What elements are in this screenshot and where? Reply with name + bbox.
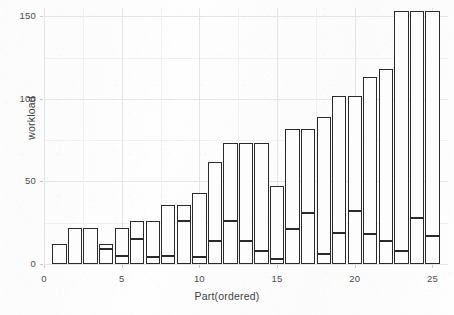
y-tick-mark bbox=[40, 16, 43, 17]
x-axis-title: Part(ordered) bbox=[0, 290, 454, 302]
bar-segment-lower bbox=[317, 254, 331, 264]
x-tick-mark bbox=[277, 265, 278, 268]
bar-segment-upper bbox=[394, 11, 408, 250]
y-tick-label: 50 bbox=[6, 175, 36, 186]
bar-segment-upper bbox=[208, 162, 222, 241]
x-tick-label: 15 bbox=[262, 273, 292, 284]
bar-segment-lower bbox=[394, 251, 408, 264]
bar-segment-upper bbox=[239, 143, 253, 240]
x-tick-label: 20 bbox=[340, 273, 370, 284]
bar-segment-upper bbox=[379, 69, 393, 241]
bar-segment-upper bbox=[363, 77, 377, 234]
bar-segment-lower bbox=[332, 233, 346, 264]
x-tick-mark bbox=[44, 265, 45, 268]
bar-segment-upper bbox=[270, 186, 284, 259]
bar-segment-lower bbox=[425, 236, 439, 264]
plot-panel bbox=[44, 8, 448, 264]
bar-segment-lower bbox=[161, 256, 175, 264]
y-tick-label: 150 bbox=[6, 10, 36, 21]
bars-layer bbox=[44, 8, 448, 264]
bar-segment-lower bbox=[363, 234, 377, 264]
x-tick-label: 0 bbox=[29, 273, 59, 284]
x-tick-mark bbox=[432, 265, 433, 268]
bar-segment-lower bbox=[379, 241, 393, 264]
bar-segment-lower bbox=[348, 211, 362, 264]
x-tick-label: 25 bbox=[417, 273, 447, 284]
y-tick-label: 0 bbox=[6, 258, 36, 269]
bar-segment-lower bbox=[239, 241, 253, 264]
bar-segment-upper bbox=[192, 193, 206, 257]
x-tick-mark bbox=[355, 265, 356, 268]
bar-segment-lower bbox=[130, 239, 144, 264]
bar-segment-upper bbox=[177, 205, 191, 222]
bar-segment-lower bbox=[301, 213, 315, 264]
bar-segment-lower bbox=[270, 259, 284, 264]
bar-segment-upper bbox=[254, 143, 268, 250]
bar-segment-upper bbox=[425, 11, 439, 236]
x-tick-label: 5 bbox=[107, 273, 137, 284]
bar-segment-upper bbox=[146, 221, 160, 257]
bar-segment-upper bbox=[130, 221, 144, 239]
bar-segment-upper bbox=[161, 205, 175, 256]
bar-segment-lower bbox=[177, 221, 191, 264]
bar-segment-lower bbox=[192, 257, 206, 264]
bar-segment-lower bbox=[223, 221, 237, 264]
bar-segment-upper bbox=[285, 129, 299, 230]
bar-segment-upper bbox=[348, 96, 362, 212]
bar-segment-upper bbox=[410, 11, 424, 217]
x-tick-mark bbox=[122, 265, 123, 268]
bar-segment-lower bbox=[99, 249, 113, 264]
bar-segment-lower bbox=[68, 228, 82, 264]
bar-segment-upper bbox=[115, 228, 129, 256]
y-tick-mark bbox=[40, 99, 43, 100]
bar-segment-lower bbox=[410, 218, 424, 264]
bar-segment-upper bbox=[332, 96, 346, 233]
chart-screenshot: 050100150 0510152025 workload Part(order… bbox=[0, 0, 454, 315]
bar-segment-lower bbox=[146, 257, 160, 264]
bar-segment-lower bbox=[285, 229, 299, 264]
y-tick-mark bbox=[40, 181, 43, 182]
y-tick-mark bbox=[40, 264, 43, 265]
bar-segment-upper bbox=[301, 129, 315, 213]
y-axis-title: workload bbox=[25, 83, 37, 153]
x-tick-label: 10 bbox=[184, 273, 214, 284]
x-tick-mark bbox=[199, 265, 200, 268]
bar-segment-lower bbox=[83, 228, 97, 264]
bar-segment-lower bbox=[254, 251, 268, 264]
gridline-major-y bbox=[44, 264, 448, 265]
bar-segment-lower bbox=[115, 256, 129, 264]
bar-segment-upper bbox=[223, 143, 237, 221]
bar-segment-upper bbox=[317, 117, 331, 254]
bar-segment-lower bbox=[208, 241, 222, 264]
bar-segment-lower bbox=[52, 244, 66, 264]
